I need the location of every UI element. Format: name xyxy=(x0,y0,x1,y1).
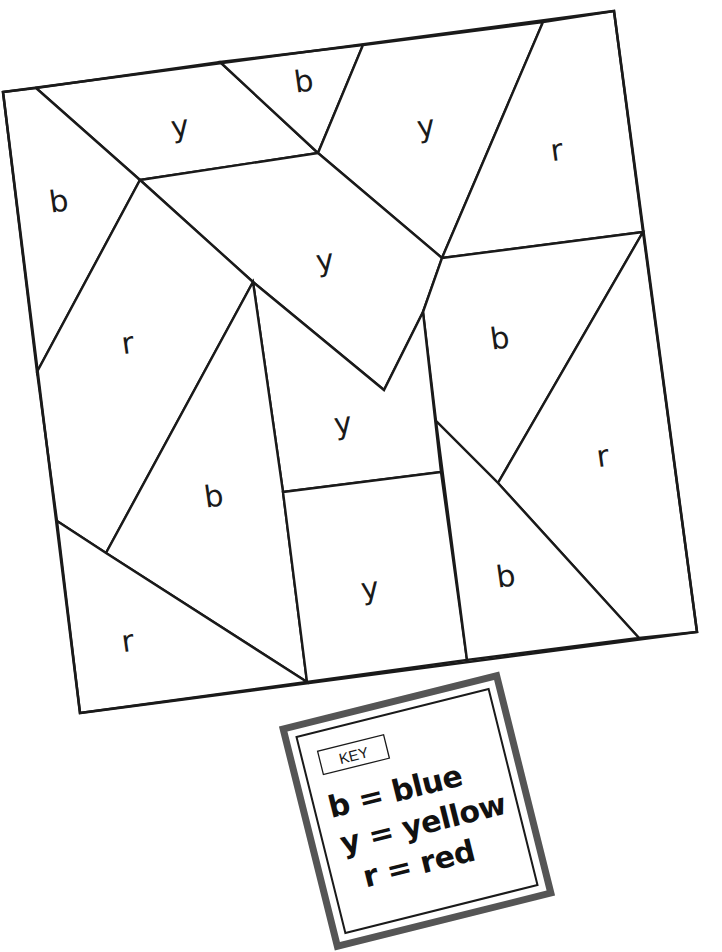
color-key: KEY b = blue y = yellow r = red xyxy=(283,676,551,947)
worksheet-canvas: y b y r b y r b y r b y b r KEY b = blue… xyxy=(0,0,722,952)
puzzle-grid xyxy=(3,11,697,713)
